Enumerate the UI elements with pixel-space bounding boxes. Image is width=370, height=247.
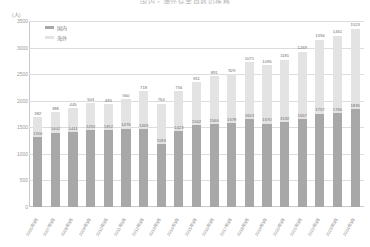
bar-series-container: 3821316388140244514115031452483145256014… [29,21,364,207]
bar-segment-domestic[interactable]: 1183 [157,144,166,207]
y-axis-tick-label: 500 [4,177,28,183]
bar-value-label-domestic: 1316 [33,132,42,137]
bar-value-label-overseas: 764 [158,98,165,103]
bar-segment-overseas[interactable]: 1071 [245,62,254,119]
bar-value-label-overseas: 483 [105,99,112,104]
x-axis-tick-label: 2013年3月 [147,217,162,237]
bar-value-label-overseas: 1071 [245,57,254,62]
bar-column[interactable]: 3821316 [33,117,42,207]
bar-value-label-overseas: 1269 [298,46,307,51]
bar-value-label-domestic: 1836 [351,104,360,109]
bar-value-label-domestic: 1657 [298,114,307,119]
y-axis-tick-label: 3500 [4,18,28,24]
bar-segment-domestic[interactable]: 1542 [192,125,201,207]
bar-value-label-domestic: 1452 [86,125,95,130]
bar-segment-domestic[interactable]: 1402 [51,133,60,208]
bar-segment-domestic[interactable]: 1570 [262,124,271,207]
bar-value-label-domestic: 1653 [245,114,254,119]
bar-segment-domestic[interactable]: 1411 [68,132,77,207]
bar-column[interactable]: 5601476 [121,99,130,207]
x-axis-tick-label: 2020年3月 [271,217,286,237]
bar-column[interactable]: 4831452 [104,104,113,207]
bar-column[interactable]: 7181469 [139,91,148,207]
bar-column[interactable]: 13941757 [315,40,324,207]
bar-value-label-overseas: 1523 [351,23,360,28]
x-axis-tick-label: 2006年3月 [24,217,39,237]
bar-segment-domestic[interactable]: 1757 [315,114,324,207]
x-axis-tick-label: 2021年3月 [288,217,303,237]
bar-column[interactable]: 8911566 [210,76,219,207]
bar-value-label-overseas: 891 [211,71,218,76]
x-axis-tick-label: 2023年3月 [324,217,339,237]
bar-value-label-overseas: 929 [228,69,235,74]
bar-column[interactable]: 4451411 [68,108,77,207]
bar-value-label-domestic: 1469 [139,124,148,129]
x-axis-tick-label: 2018年3月 [235,217,250,237]
y-axis-tick-label: 0 [4,204,28,210]
x-axis-labels: 2006年3月2007年3月2008年3月2009年3月2010年3月2011年… [29,208,364,247]
bar-value-label-overseas: 1181 [280,54,289,59]
y-axis-tick-label: 2500 [4,71,28,77]
bar-column[interactable]: 14611766 [333,36,342,207]
bar-column[interactable]: 10711653 [245,62,254,207]
bar-column[interactable]: 10951570 [262,65,271,207]
bar-value-label-overseas: 560 [122,94,129,99]
bar-segment-overseas[interactable]: 1461 [333,36,342,114]
bar-segment-domestic[interactable]: 1653 [245,119,254,207]
y-axis-tick-label: 1500 [4,124,28,130]
bar-segment-overseas[interactable]: 1269 [298,52,307,119]
bar-column[interactable]: 7641183 [157,104,166,207]
x-axis-tick-label: 2008年3月 [59,217,74,237]
bar-segment-overseas[interactable]: 1181 [280,60,289,123]
y-axis-tick-label: 3000 [4,45,28,51]
bar-value-label-overseas: 1394 [315,34,324,39]
x-axis-tick-label: 2016年3月 [200,217,215,237]
bar-segment-domestic[interactable]: 1657 [298,119,307,207]
bar-value-label-domestic: 1592 [280,117,289,122]
x-axis-tick-label: 2007年3月 [41,217,56,237]
x-axis-tick-label: 2024年3月 [341,217,356,237]
bar-value-label-domestic: 1578 [227,118,236,123]
y-axis-unit-label: (人) [12,11,20,18]
bar-segment-domestic[interactable]: 1578 [227,123,236,207]
bar-segment-domestic[interactable]: 1423 [174,131,183,207]
bar-value-label-domestic: 1766 [333,108,342,113]
bar-segment-overseas[interactable]: 1523 [351,29,360,110]
bar-segment-domestic[interactable]: 1592 [280,122,289,207]
bar-segment-domestic[interactable]: 1469 [139,129,148,207]
bar-segment-domestic[interactable]: 1566 [210,124,219,207]
bar-value-label-domestic: 1570 [262,118,271,123]
bar-segment-domestic[interactable]: 1766 [333,113,342,207]
bar-column[interactable]: 9291578 [227,74,236,207]
bar-value-label-domestic: 1402 [51,127,60,132]
bar-value-label-overseas: 382 [34,112,41,117]
bar-segment-domestic[interactable]: 1316 [33,137,42,207]
bar-segment-overseas[interactable]: 1095 [262,65,271,123]
plot-area: 3821316388140244514115031452483145256014… [29,21,364,207]
bar-value-label-domestic: 1183 [157,139,166,144]
bar-column[interactable]: 8111542 [192,82,201,207]
chart-title: 国内・海外従業員数の推移 [0,0,370,4]
bar-segment-domestic[interactable]: 1452 [86,130,95,207]
bar-column[interactable]: 3881402 [51,112,60,207]
bar-value-label-domestic: 1411 [69,127,78,132]
x-axis-tick-label: 2022年3月 [306,217,321,237]
bar-segment-domestic[interactable]: 1452 [104,130,113,207]
bar-column[interactable]: 5031452 [86,103,95,207]
bar-column[interactable]: 15231836 [351,29,360,207]
y-axis-tick-label: 2000 [4,98,28,104]
x-axis-tick-label: 2011年3月 [112,217,127,237]
bar-column[interactable]: 12691657 [298,52,307,207]
x-axis-tick-label: 2015年3月 [183,217,198,237]
bar-value-label-domestic: 1566 [209,119,218,124]
bar-value-label-overseas: 756 [175,86,182,91]
bar-segment-overseas[interactable]: 929 [227,74,236,123]
bar-value-label-overseas: 718 [140,86,147,91]
bar-segment-overseas[interactable]: 1394 [315,40,324,114]
y-axis-tick-label: 1000 [4,151,28,157]
x-axis-tick-label: 2009年3月 [77,217,92,237]
bar-segment-domestic[interactable]: 1836 [351,109,360,207]
bar-column[interactable]: 11811592 [280,60,289,207]
bar-segment-domestic[interactable]: 1476 [121,129,130,207]
bar-column[interactable]: 7561423 [174,91,183,207]
